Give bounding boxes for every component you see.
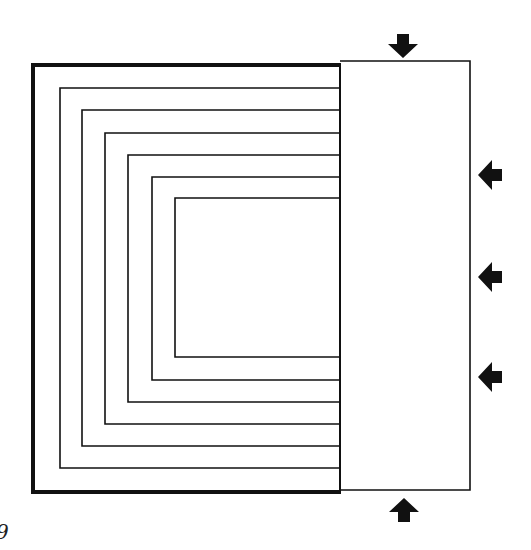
right-arrow-3-icon (478, 362, 502, 392)
outer-frame (33, 63, 340, 494)
right-box-outline (340, 61, 470, 490)
top-arrow-icon (388, 34, 418, 58)
channel-2 (82, 110, 340, 446)
figure-number-fragment: 9 (0, 520, 9, 544)
channel-4 (128, 155, 340, 402)
bottom-arrow-icon (389, 498, 419, 522)
channel-6 (175, 198, 340, 357)
nested-channels (60, 88, 340, 468)
outer-frame-outline (33, 65, 340, 492)
nested-channel-diagram (0, 0, 531, 550)
right-arrow-1-icon (478, 160, 502, 190)
channel-1 (60, 88, 340, 468)
pressure-arrows (388, 34, 502, 522)
channel-5 (152, 177, 340, 380)
right-arrow-2-icon (478, 262, 502, 292)
right-box (340, 61, 470, 490)
